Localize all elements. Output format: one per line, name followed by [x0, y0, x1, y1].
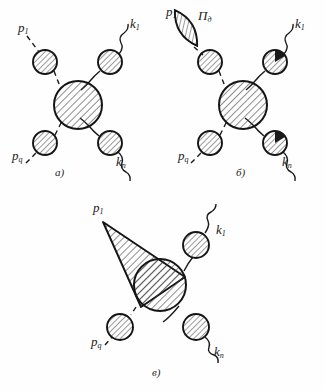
outgoing-wave-k1	[205, 204, 216, 233]
incoming-line-pq	[26, 151, 38, 163]
label-momentum-k1-b: k1	[295, 16, 305, 32]
propagator-upper-right	[184, 257, 193, 271]
outgoing-wave-k1	[119, 24, 128, 54]
label-momentum-kn-a: kn	[116, 154, 126, 170]
propagator-upper-left	[54, 71, 61, 89]
panel-caption-b: б)	[236, 166, 245, 178]
label-momentum-p1-b: p1	[166, 4, 177, 20]
propagator-upper-left	[219, 71, 226, 89]
label-momentum-pq-b: pq	[178, 148, 189, 164]
label-operator-pi-b: Пд	[198, 8, 211, 24]
outgoing-wave-k1	[284, 24, 293, 54]
incoming-line-pq	[191, 151, 203, 163]
label-momentum-pq-a: pq	[12, 148, 23, 164]
propagator-lower-left	[131, 307, 136, 315]
panel-caption-c: в)	[152, 366, 160, 378]
figure-canvas: p1 k1 pq kn а) p1 Пд k1 pq kn б) p1 k1 p…	[0, 0, 326, 391]
label-momentum-kn-c: kn	[214, 344, 224, 360]
central-vertex-blob	[219, 81, 267, 129]
label-momentum-p1-a: p1	[18, 20, 29, 36]
incoming-line-p1	[27, 36, 39, 52]
in-upper-blob	[198, 50, 222, 74]
in-upper-blob	[33, 50, 57, 74]
label-momentum-k1-c: k1	[216, 222, 226, 238]
out-upper-blob	[183, 232, 209, 258]
label-momentum-p1-c: p1	[93, 200, 104, 216]
out-upper-blob	[98, 50, 122, 74]
central-vertex-blob	[134, 259, 186, 311]
label-momentum-pq-c: pq	[91, 334, 102, 350]
central-vertex-blob	[54, 81, 102, 129]
in-lower-blob	[107, 314, 133, 340]
incoming-line-pq	[105, 337, 112, 345]
out-lower-blob	[183, 314, 209, 340]
out-lower-blob	[98, 131, 122, 155]
in-lower-blob	[33, 131, 57, 155]
label-momentum-k1-a: k1	[130, 16, 140, 32]
panel-caption-a: а)	[55, 166, 64, 178]
panel-c	[103, 204, 218, 363]
diagram-svg	[0, 0, 326, 391]
panel-a	[26, 24, 130, 181]
in-lower-blob	[198, 131, 222, 155]
label-momentum-kn-b: kn	[282, 154, 292, 170]
